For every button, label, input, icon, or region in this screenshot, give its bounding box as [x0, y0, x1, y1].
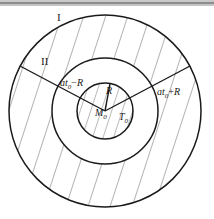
label-radius-R-text: R — [106, 85, 112, 96]
label-time-T0: T0 — [119, 112, 128, 125]
label-left-expression-tail: R — [77, 77, 83, 88]
label-region-two-text: II — [41, 55, 48, 67]
label-center-mass-sub: 0 — [103, 113, 107, 121]
diagram-svg — [0, 0, 214, 219]
label-left-expression: at0−R — [60, 78, 83, 91]
label-center-mass: M0 — [95, 108, 107, 121]
label-right-expression: at0+R — [157, 87, 180, 100]
label-time-T0-sub: 0 — [125, 117, 129, 125]
label-right-expression-base: at — [157, 86, 165, 97]
label-region-one-text: I — [57, 11, 61, 23]
label-radius-R: R — [106, 86, 112, 96]
label-right-expression-tail: R — [174, 86, 180, 97]
label-left-expression-base: at — [60, 77, 68, 88]
label-region-two: II — [41, 56, 48, 67]
figure-canvas: I II R M0 T0 at0−R at0+R — [0, 0, 214, 219]
label-region-one: I — [57, 12, 61, 23]
